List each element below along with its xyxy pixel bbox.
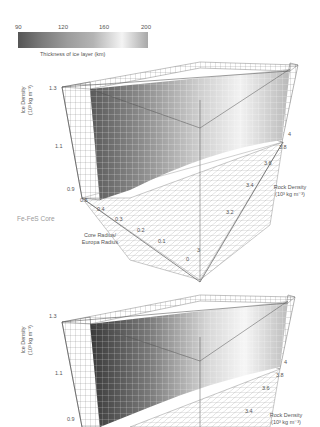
axis-label-text: Ice Density [20, 70, 27, 130]
ice-density-axis-label: Ice Density (10³ kg m⁻³) [20, 310, 34, 370]
axis-label-text: Core Radius/ [70, 232, 130, 239]
ice-axis-tick: 0.9 [67, 186, 75, 192]
rock-density-axis-label: Rock Density (10³ kg m⁻³) [260, 184, 320, 198]
ice-axis-tick: 1.3 [49, 85, 57, 91]
axis-unit-text: (10³ kg m⁻³) [27, 310, 34, 370]
ice-axis-tick: 1.1 [55, 370, 63, 376]
rock-axis-tick: 3.8 [276, 372, 284, 378]
core-axis-tick: 0.2 [137, 227, 145, 233]
axis-label-text: Ice Density [20, 310, 27, 370]
rock-axis-tick: 3.6 [264, 160, 272, 166]
ice-axis-tick: 1.3 [49, 313, 57, 319]
core-axis-tick: 0.4 [97, 206, 105, 212]
rock-axis-tick: 3.6 [262, 385, 270, 391]
surface-plot-1-graphic [0, 0, 320, 290]
rock-density-axis-label: Rock Density (10³ kg m⁻³) [256, 412, 316, 426]
ice-axis-tick: 0.9 [67, 416, 75, 422]
core-radius-axis-label: Core Radius/ Europa Radius [70, 232, 130, 246]
axis-unit-text: (10³ kg m⁻³) [256, 419, 316, 426]
core-axis-tick: 0.1 [158, 238, 166, 244]
rock-axis-tick: 3.4 [246, 182, 254, 188]
axis-label-text: Rock Density [256, 412, 316, 419]
axis-unit-text: (10³ kg m⁻³) [260, 191, 320, 198]
rock-axis-tick: 3.2 [226, 209, 234, 215]
rock-axis-tick: 4 [288, 131, 291, 137]
axis-label-text: Rock Density [260, 184, 320, 191]
rock-axis-tick: 3.4 [245, 408, 253, 414]
ice-density-axis-label: Ice Density (10³ kg m⁻³) [20, 70, 34, 130]
axis-unit-text: (10³ kg m⁻³) [27, 70, 34, 130]
core-axis-tick: 0.5 [80, 197, 88, 203]
core-axis-tick: 0 [186, 256, 189, 262]
ice-axis-tick: 1.1 [55, 143, 63, 149]
rock-axis-tick: 3 [197, 247, 200, 253]
axis-label-text: Europa Radius [70, 239, 130, 246]
rock-axis-tick: 3.8 [279, 144, 287, 150]
core-type-label: Fe-FeS Core [17, 215, 55, 222]
rock-axis-tick: 4 [284, 359, 287, 365]
surface-plot-2-graphic [0, 287, 320, 427]
core-axis-tick: 0.3 [115, 216, 123, 222]
